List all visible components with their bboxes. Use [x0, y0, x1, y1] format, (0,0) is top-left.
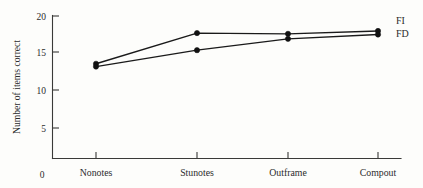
y-tick-label-10: 10	[37, 86, 47, 96]
data-point-fd-compout	[375, 32, 380, 37]
line-chart-figure: 20 15 10 5 0 Number of items correct Non…	[0, 0, 423, 188]
data-point-fd-nonotes	[93, 64, 98, 69]
chart-plot-area: 20 15 10 5 0 Number of items correct Non…	[0, 0, 423, 188]
data-point-fi-stunotes	[194, 30, 199, 35]
y-tick-label-20: 20	[37, 12, 47, 22]
x-label-nonotes: Nonotes	[80, 167, 113, 178]
y-tick-label-15: 15	[37, 48, 47, 58]
y-axis-title: Number of items correct	[11, 40, 22, 134]
data-point-fd-stunotes	[194, 48, 199, 53]
x-label-compout: Compout	[360, 167, 397, 178]
series-label-fd: FD	[396, 28, 409, 39]
origin-label-zero: 0	[40, 170, 45, 180]
series-layer	[93, 28, 380, 69]
data-point-fd-outframe	[285, 36, 290, 41]
x-label-stunotes: Stunotes	[180, 167, 214, 178]
x-label-outframe: Outframe	[269, 167, 307, 178]
series-label-fi: FI	[396, 15, 405, 26]
data-point-fi-outframe	[285, 31, 290, 36]
y-tick-label-5: 5	[41, 124, 46, 134]
